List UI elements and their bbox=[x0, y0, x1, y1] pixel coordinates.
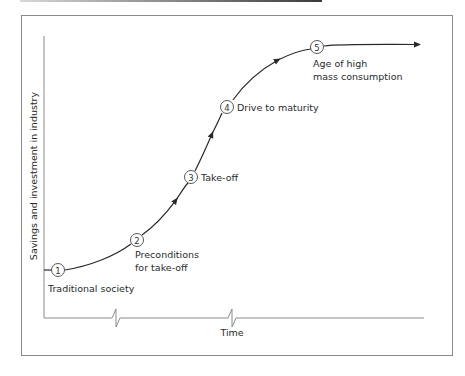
stage-4-number: 4 bbox=[224, 103, 229, 113]
stage-5: 5 Age of high mass consumption bbox=[311, 41, 403, 83]
stage-2: 2 Preconditions for take-off bbox=[131, 234, 200, 274]
stage-4: 4 Drive to maturity bbox=[221, 101, 319, 114]
stage-2-number: 2 bbox=[134, 236, 139, 246]
stage-2-label-line-1: Preconditions bbox=[135, 249, 199, 260]
stage-5-label-line-2: mass consumption bbox=[313, 71, 403, 82]
stage-2-label-line-2: for take-off bbox=[135, 262, 188, 273]
stage-3: 3 Take-off bbox=[185, 171, 239, 184]
y-axis-label: Savings and investment in industry bbox=[28, 91, 39, 260]
x-axis bbox=[44, 309, 424, 327]
stage-1: 1 Traditional society bbox=[47, 264, 135, 295]
stages-of-growth-diagram: Savings and investment in industry Time … bbox=[0, 0, 465, 376]
x-axis-label: Time bbox=[219, 327, 243, 338]
stage-3-number: 3 bbox=[188, 173, 193, 183]
stage-5-number: 5 bbox=[314, 43, 319, 53]
stage-1-label: Traditional society bbox=[47, 283, 135, 294]
stage-3-label: Take-off bbox=[200, 172, 238, 183]
stage-5-label-line-1: Age of high bbox=[313, 58, 367, 69]
stage-4-label: Drive to maturity bbox=[237, 102, 319, 113]
stage-1-number: 1 bbox=[55, 266, 60, 276]
